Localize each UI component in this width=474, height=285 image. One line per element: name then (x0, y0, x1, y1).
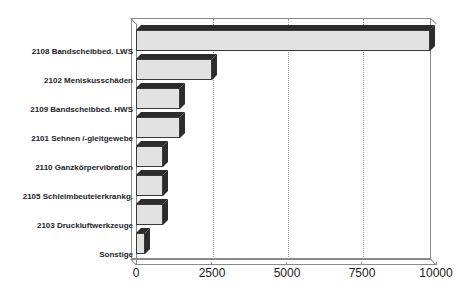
category-label-5: 2105 Schleimbeutelerkrankg. (3, 192, 133, 201)
category-label-4: 2110 Ganzkörpervibration (3, 163, 133, 172)
category-label-6: 2103 Druckluftwerkzeuge (3, 221, 133, 230)
category-label-0: 2108 Bandscheibbed. LWS (3, 47, 133, 56)
xtick-label-5000: 5000 (274, 266, 301, 280)
plot-area: 2108 Bandscheibbed. LWS 2102 Meniskussch… (0, 0, 474, 285)
xtick-mark-7500 (361, 262, 362, 265)
xtick-label-10000: 10000 (419, 266, 452, 280)
category-label-7: Sonstige (3, 250, 133, 259)
category-label-3: 2101 Sehnen /-gleitgewebe (3, 134, 133, 143)
category-label-2: 2109 Bandscheibbed. HWS (3, 105, 133, 114)
xtick-mark-5000 (286, 262, 287, 265)
gridline-5000 (288, 19, 289, 259)
bar-chart: 2108 Bandscheibbed. LWS 2102 Meniskussch… (0, 0, 474, 285)
xtick-label-0: 0 (133, 266, 140, 280)
xtick-mark-2500 (211, 262, 212, 265)
bar-2-face (136, 88, 180, 109)
bar-7-face (136, 233, 145, 254)
floor-back-edge (131, 259, 431, 260)
bar-6-face (136, 204, 163, 225)
category-label-1: 2102 Meniskusschäden (3, 76, 133, 85)
gridline-7500 (363, 19, 364, 259)
xtick-label-2500: 2500 (199, 266, 226, 280)
xtick-mark-10000 (436, 262, 437, 265)
bar-3-face (136, 117, 180, 138)
bar-1-face (136, 59, 212, 80)
bar-5-face (136, 175, 163, 196)
bar-4-face (136, 146, 163, 167)
bar-0-face (136, 30, 430, 51)
xtick-mark-0 (136, 262, 137, 265)
xtick-label-7500: 7500 (349, 266, 376, 280)
